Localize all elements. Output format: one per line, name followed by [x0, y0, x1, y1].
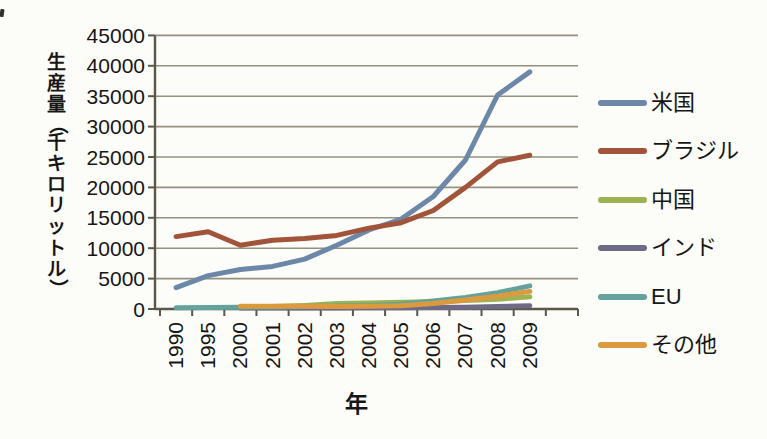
- legend-swatch-others: [598, 342, 647, 348]
- legend: 米国 ブラジル 中国 インド EU その他: [598, 90, 739, 380]
- series-line-1: [176, 155, 530, 245]
- y-tick-label: 40000: [87, 54, 145, 77]
- legend-swatch-india: [598, 245, 647, 251]
- y-tick-label: 45000: [87, 24, 145, 47]
- legend-swatch-eu: [598, 294, 647, 300]
- y-axis-title-char: 量: [47, 94, 66, 115]
- x-tick-label: 2003: [325, 322, 348, 369]
- y-axis-title-char: キ: [47, 153, 66, 174]
- x-tick-label: 2007: [453, 322, 476, 369]
- y-tick-label: 30000: [87, 115, 145, 138]
- legend-label-others: その他: [651, 332, 717, 358]
- legend-label-brazil: ブラジル: [651, 138, 739, 164]
- legend-swatch-brazil: [598, 148, 647, 154]
- y-axis-title-char: ト: [47, 238, 66, 259]
- y-axis-title-char: 産: [47, 73, 66, 94]
- y-axis-title-char: 千: [47, 132, 66, 153]
- y-axis-title-char: ロ: [47, 174, 66, 195]
- x-tick-label: 2009: [518, 322, 541, 369]
- legend-label-us: 米国: [651, 90, 695, 116]
- y-axis-title: 生産量（千キロリットル）: [41, 52, 71, 296]
- x-tick-label: 2002: [293, 322, 316, 369]
- legend-swatch-china: [598, 197, 647, 203]
- x-tick-label: 1990: [164, 322, 187, 369]
- y-tick-label: 10000: [87, 237, 145, 260]
- legend-item-china: 中国: [598, 187, 739, 213]
- x-tick-label: 2005: [389, 322, 412, 369]
- x-axis-title: 年: [276, 385, 436, 419]
- legend-swatch-us: [598, 100, 647, 106]
- y-axis-title-char: ッ: [47, 216, 66, 237]
- x-tick-label: 1995: [196, 322, 219, 369]
- legend-label-eu: EU: [651, 284, 682, 310]
- legend-label-india: インド: [651, 235, 717, 261]
- scanned-line-chart: 0500010000150002000025000300003500040000…: [0, 0, 767, 439]
- x-tick-label: 2008: [486, 322, 509, 369]
- y-tick-label: 20000: [87, 176, 145, 199]
- x-tick-label: 2004: [357, 322, 380, 369]
- legend-item-us: 米国: [598, 90, 739, 116]
- y-axis-title-char: ）: [48, 278, 64, 297]
- legend-item-india: インド: [598, 235, 739, 261]
- y-axis-title-char: ル: [47, 259, 66, 280]
- x-tick-label: 2000: [228, 322, 251, 369]
- y-tick-label: 0: [133, 298, 145, 321]
- y-axis-title-char: （: [48, 114, 64, 133]
- legend-item-eu: EU: [598, 284, 739, 310]
- legend-label-china: 中国: [651, 187, 695, 213]
- x-tick-label: 2001: [261, 322, 284, 369]
- y-tick-label: 15000: [87, 206, 145, 229]
- legend-item-brazil: ブラジル: [598, 138, 739, 164]
- legend-item-others: その他: [598, 332, 739, 358]
- y-tick-label: 25000: [87, 146, 145, 169]
- y-axis-title-char: リ: [47, 195, 66, 216]
- y-axis-title-char: 生: [47, 52, 66, 73]
- x-tick-label: 2006: [421, 322, 444, 369]
- y-tick-label: 5000: [98, 267, 145, 290]
- y-tick-label: 35000: [87, 85, 145, 108]
